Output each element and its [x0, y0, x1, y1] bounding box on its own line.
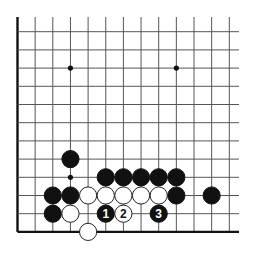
star-point-icon — [174, 66, 179, 71]
star-point-icon — [68, 66, 73, 71]
black-stone — [115, 169, 132, 186]
move-number-label: 3 — [155, 207, 162, 221]
go-board: 123 — [0, 0, 256, 253]
black-stone — [97, 169, 114, 186]
white-stone — [132, 187, 149, 204]
white-stone-icon — [80, 223, 97, 240]
white-stone — [150, 187, 167, 204]
black-stone-icon — [168, 187, 185, 204]
black-stone — [44, 187, 61, 204]
black-stone-icon — [132, 169, 149, 186]
black-stone — [168, 169, 185, 186]
white-stone-move-2: 2 — [115, 205, 132, 222]
black-stone-move-3: 3 — [150, 205, 167, 222]
white-stone-icon — [150, 187, 167, 204]
black-stone — [62, 151, 79, 168]
white-stone — [62, 205, 79, 222]
black-stone — [62, 187, 79, 204]
white-stone-icon — [80, 187, 97, 204]
black-stone-icon — [168, 169, 185, 186]
white-stone-icon — [115, 187, 132, 204]
white-stone — [80, 223, 97, 240]
black-stone-icon — [44, 187, 61, 204]
black-stone — [168, 187, 185, 204]
move-number-label: 1 — [102, 207, 109, 221]
black-stone — [203, 187, 220, 204]
white-stone — [80, 187, 97, 204]
black-stone-move-1: 1 — [97, 205, 114, 222]
black-stone — [132, 169, 149, 186]
black-stone — [44, 205, 61, 222]
black-stone-icon — [62, 187, 79, 204]
star-point-icon — [68, 175, 73, 180]
black-stone-icon — [115, 169, 132, 186]
white-stone — [97, 187, 114, 204]
black-stone-icon — [150, 169, 167, 186]
move-number-label: 2 — [120, 207, 127, 221]
black-stone-icon — [44, 205, 61, 222]
black-stone-icon — [62, 151, 79, 168]
white-stone-icon — [132, 187, 149, 204]
white-stone — [115, 187, 132, 204]
white-stone-icon — [97, 187, 114, 204]
white-stone-icon — [62, 205, 79, 222]
black-stone-icon — [203, 187, 220, 204]
black-stone-icon — [97, 169, 114, 186]
black-stone — [150, 169, 167, 186]
